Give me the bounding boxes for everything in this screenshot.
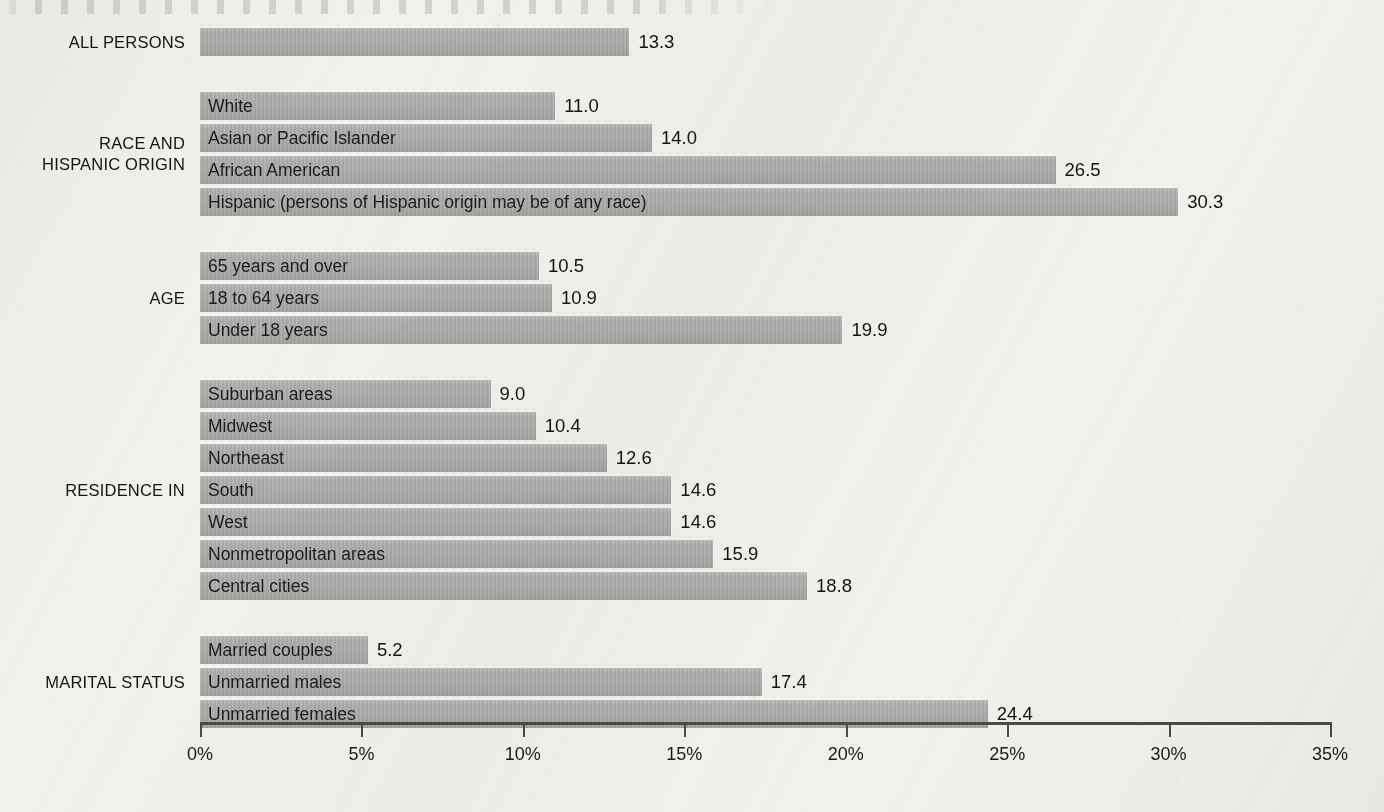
bar-category-label: Married couples xyxy=(208,636,333,664)
bar-value-label: 10.4 xyxy=(545,412,581,440)
bar-row: African American26.5 xyxy=(0,156,1384,184)
bar-value-label: 18.8 xyxy=(816,572,852,600)
bar-category-label: Unmarried males xyxy=(208,668,341,696)
bar-row: Midwest10.4 xyxy=(0,412,1384,440)
bar-row: Central cities18.8 xyxy=(0,572,1384,600)
x-axis-tick-label: 20% xyxy=(828,744,864,765)
bar-category-label: 18 to 64 years xyxy=(208,284,319,312)
x-axis-tick-label: 25% xyxy=(989,744,1025,765)
bar-value-label: 12.6 xyxy=(616,444,652,472)
bar-track xyxy=(200,508,671,536)
group-label-race-and-hispanic-origin: RACE AND HISPANIC ORIGIN xyxy=(0,133,185,175)
x-axis-tick-label: 30% xyxy=(1151,744,1187,765)
bar-row: Hispanic (persons of Hispanic origin may… xyxy=(0,188,1384,216)
bar-value-label: 19.9 xyxy=(851,316,887,344)
bar-row: Unmarried males17.4 xyxy=(0,668,1384,696)
x-axis-tick xyxy=(684,722,686,737)
bar-value-label: 10.5 xyxy=(548,252,584,280)
bar-value-label: 24.4 xyxy=(997,700,1033,728)
bar-row: South14.6 xyxy=(0,476,1384,504)
bar-category-label: Midwest xyxy=(208,412,272,440)
bar-value-label: 10.9 xyxy=(561,284,597,312)
bar-row: Nonmetropolitan areas15.9 xyxy=(0,540,1384,568)
bar-category-label: White xyxy=(208,92,253,120)
bar-category-label: Under 18 years xyxy=(208,316,328,344)
bar-category-label: South xyxy=(208,476,254,504)
bar-category-label: West xyxy=(208,508,248,536)
x-axis-tick xyxy=(200,722,202,737)
bar-fill xyxy=(200,28,629,56)
x-axis-tick xyxy=(1330,722,1332,737)
x-axis-tick xyxy=(846,722,848,737)
poverty-rate-bar-chart: 13.3White11.0Asian or Pacific Islander14… xyxy=(0,0,1384,812)
bar-fill xyxy=(200,508,671,536)
x-axis-tick-label: 10% xyxy=(505,744,541,765)
x-axis-tick-label: 0% xyxy=(187,744,213,765)
bar-row: Under 18 years19.9 xyxy=(0,316,1384,344)
bar-row: 18 to 64 years10.9 xyxy=(0,284,1384,312)
bar-category-label: Nonmetropolitan areas xyxy=(208,540,385,568)
x-axis-line xyxy=(200,722,1332,725)
bar-value-label: 14.0 xyxy=(661,124,697,152)
bar-row: Suburban areas9.0 xyxy=(0,380,1384,408)
bar-value-label: 9.0 xyxy=(500,380,526,408)
bar-row: Asian or Pacific Islander14.0 xyxy=(0,124,1384,152)
bar-track xyxy=(200,28,629,56)
bar-category-label: Unmarried females xyxy=(208,700,356,728)
bar-category-label: Asian or Pacific Islander xyxy=(208,124,396,152)
x-axis-tick-label: 15% xyxy=(666,744,702,765)
bar-category-label: Suburban areas xyxy=(208,380,333,408)
bar-value-label: 13.3 xyxy=(638,28,674,56)
bar-value-label: 17.4 xyxy=(771,668,807,696)
bar-row: Northeast12.6 xyxy=(0,444,1384,472)
bar-category-label: Central cities xyxy=(208,572,309,600)
bar-value-label: 11.0 xyxy=(564,92,599,120)
group-label-age: AGE xyxy=(0,288,185,309)
bar-row: 65 years and over10.5 xyxy=(0,252,1384,280)
bar-row: Married couples5.2 xyxy=(0,636,1384,664)
bar-value-label: 30.3 xyxy=(1187,188,1223,216)
bar-category-label: Hispanic (persons of Hispanic origin may… xyxy=(208,188,647,216)
bar-value-label: 26.5 xyxy=(1065,156,1101,184)
bar-row: 13.3 xyxy=(0,28,1384,56)
group-label-residence-in: RESIDENCE IN xyxy=(0,480,185,501)
bar-fill xyxy=(200,476,671,504)
bar-row: White11.0 xyxy=(0,92,1384,120)
bar-track xyxy=(200,92,555,120)
bar-category-label: African American xyxy=(208,156,340,184)
x-axis-tick xyxy=(361,722,363,737)
bar-row: West14.6 xyxy=(0,508,1384,536)
bar-category-label: 65 years and over xyxy=(208,252,348,280)
group-label-marital-status: MARITAL STATUS xyxy=(0,672,185,693)
bar-track xyxy=(200,476,671,504)
x-axis-tick-label: 5% xyxy=(348,744,374,765)
bar-value-label: 5.2 xyxy=(377,636,403,664)
x-axis-tick-label: 35% xyxy=(1312,744,1348,765)
bar-value-label: 14.6 xyxy=(680,508,716,536)
bar-category-label: Northeast xyxy=(208,444,284,472)
bar-value-label: 15.9 xyxy=(722,540,758,568)
x-axis-tick xyxy=(1169,722,1171,737)
bar-fill xyxy=(200,92,555,120)
bar-value-label: 14.6 xyxy=(680,476,716,504)
group-label-all-persons: ALL PERSONS xyxy=(0,32,185,53)
x-axis-tick xyxy=(523,722,525,737)
